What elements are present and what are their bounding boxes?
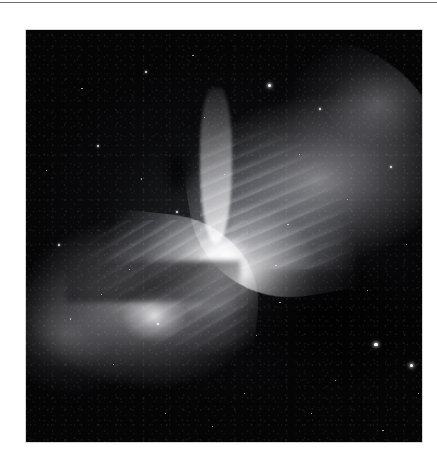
astronomy-image-plate: [26, 30, 422, 442]
nebula-figure: [26, 30, 422, 442]
star: [192, 55, 193, 56]
star: [244, 393, 245, 394]
star: [256, 335, 257, 336]
star: [287, 224, 288, 225]
dark-notch: [157, 137, 197, 203]
star: [279, 302, 280, 303]
dark-wedge: [232, 269, 422, 384]
page-horizontal-rule: [0, 2, 437, 3]
star: [268, 84, 271, 87]
star: [275, 265, 276, 266]
star: [382, 430, 383, 431]
star: [81, 88, 82, 89]
star: [141, 178, 142, 179]
dark-dust-lane: [66, 261, 240, 302]
central-spine: [200, 88, 232, 245]
star: [157, 323, 159, 325]
star: [374, 343, 377, 346]
star: [58, 244, 60, 246]
star: [367, 290, 368, 291]
star: [347, 199, 348, 200]
star: [70, 318, 71, 319]
